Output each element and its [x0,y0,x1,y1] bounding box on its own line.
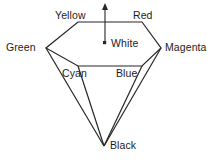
edge-magenta-to-black [104,48,161,146]
label-green: Green [6,42,36,53]
label-red: Red [133,10,153,21]
label-yellow: Yellow [55,10,86,21]
white-point-dot-icon [103,41,106,44]
label-magenta: Magenta [165,42,207,53]
label-black: Black [110,140,136,151]
label-white: White [111,38,138,49]
label-blue: Blue [116,68,137,79]
hexcone-diagram: Yellow Red Green Magenta White Cyan Blue… [0,0,211,162]
label-cyan: Cyan [62,68,87,79]
edge-green-to-black [46,48,104,146]
up-arrow-icon [102,3,108,10]
hexcone-drawing [0,0,211,162]
